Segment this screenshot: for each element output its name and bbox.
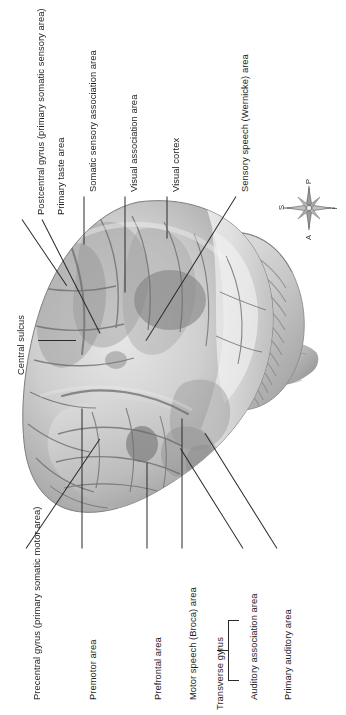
transverse-gyrus-bracket-arm-bottom	[228, 680, 239, 681]
cerebrum-shape	[23, 201, 275, 513]
label-auditory-association-area: Auditory association area	[249, 593, 258, 700]
label-primary-auditory-area: Primary auditory area	[283, 609, 292, 700]
label-precentral-gyrus: Precentral gyrus (primary somatic motor …	[32, 507, 41, 700]
label-visual-association-area: Visual association area	[129, 95, 138, 192]
label-central-sulcus: Central sulcus	[16, 315, 25, 375]
leader-prefrontal-area	[147, 463, 148, 549]
compass-letter-inferior: I	[330, 207, 339, 209]
compass-letter-anterior: A	[304, 235, 313, 240]
label-prefrontal-area: Prefrontal area	[153, 637, 162, 700]
leader-premotor-area	[82, 409, 83, 549]
transverse-gyrus-bracket-arm-top	[228, 620, 239, 621]
leader-central-sulcus	[38, 340, 76, 341]
compass-letter-superior: S	[277, 205, 286, 210]
leader-broca	[182, 419, 183, 549]
label-postcentral-gyrus: Postcentral gyrus (primary somatic senso…	[36, 8, 45, 215]
brain-illustration	[20, 196, 320, 548]
compass-letter-posterior: P	[304, 179, 313, 184]
label-transverse-gyrus: Transverse gyrus	[215, 637, 224, 710]
leader-somatic-sensory-association	[84, 197, 85, 245]
label-somatic-sensory-association-area: Somatic sensory association area	[88, 50, 97, 192]
orientation-compass-rose: S P A I	[280, 172, 338, 244]
label-sensory-speech-wernicke-area: Sensory speech (Wernicke) area	[240, 54, 249, 192]
label-visual-cortex: Visual cortex	[171, 138, 180, 192]
leader-visual-association	[125, 197, 126, 293]
region-primary-taste	[105, 351, 127, 369]
leader-visual-cortex	[167, 197, 168, 239]
label-premotor-area: Premotor area	[88, 639, 97, 700]
label-motor-speech-broca-area: Motor speech (Broca) area	[188, 587, 197, 700]
label-primary-taste-area: Primary taste area	[56, 138, 65, 216]
brain-functional-areas-figure: Central sulcus Postcentral gyrus (primar…	[0, 0, 346, 715]
transverse-gyrus-bracket-spine	[228, 620, 229, 680]
